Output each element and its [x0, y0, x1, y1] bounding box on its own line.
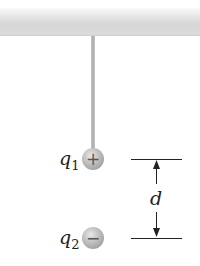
distance-arrows	[0, 0, 200, 266]
distance-label: d	[150, 187, 162, 209]
arrow-up-icon	[153, 160, 160, 169]
arrow-down-icon	[153, 228, 160, 237]
